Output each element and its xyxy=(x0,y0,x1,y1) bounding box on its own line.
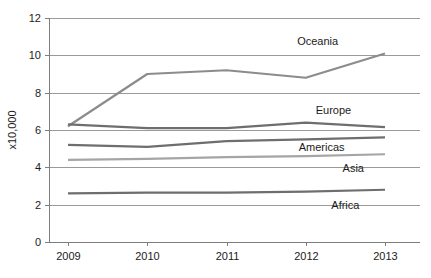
y-tick-label: 6 xyxy=(35,124,41,136)
y-tick-label: 12 xyxy=(29,12,41,24)
x-tick-label: 2012 xyxy=(294,250,318,262)
series-lines-group xyxy=(68,53,385,193)
series-label-europe: Europe xyxy=(316,104,351,116)
y-axis-title: x10,000 xyxy=(6,110,18,149)
y-tick-labels-group: 024681012 xyxy=(29,12,41,248)
chart-canvas: 024681012 20092010201120122013 OceaniaEu… xyxy=(0,0,431,278)
y-tick-label: 2 xyxy=(35,199,41,211)
x-tick-label: 2009 xyxy=(56,250,80,262)
series-label-oceania: Oceania xyxy=(297,35,339,47)
y-tick-label: 4 xyxy=(35,161,41,173)
y-tick-label: 0 xyxy=(35,236,41,248)
x-tick-labels-group: 20092010201120122013 xyxy=(56,250,397,262)
y-tick-label: 10 xyxy=(29,49,41,61)
y-axis-title-group: x10,000 xyxy=(6,110,18,149)
series-line-asia xyxy=(68,154,385,160)
series-line-africa xyxy=(68,190,385,194)
x-tick-label: 2010 xyxy=(135,250,159,262)
x-tick-label: 2011 xyxy=(216,250,240,262)
y-tick-label: 8 xyxy=(35,87,41,99)
series-line-europe xyxy=(68,123,385,129)
x-tick-label: 2013 xyxy=(373,250,397,262)
series-label-africa: Africa xyxy=(331,199,360,211)
series-label-asia: Asia xyxy=(343,162,365,174)
series-label-americas: Americas xyxy=(299,141,345,153)
gridlines-group xyxy=(49,19,420,243)
line-chart: 024681012 20092010201120122013 OceaniaEu… xyxy=(0,0,431,278)
y-axis-group xyxy=(45,18,50,243)
